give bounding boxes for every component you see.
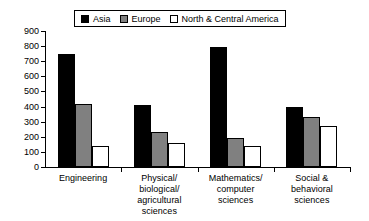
y-axis-tick-mark xyxy=(41,137,45,138)
bar-north-central-america xyxy=(92,146,109,167)
y-axis-tick-mark xyxy=(41,107,45,108)
x-axis-category-label: Physical/ biological/ agricultural scien… xyxy=(121,173,197,217)
y-axis-tick-label: 700 xyxy=(24,57,39,66)
plot-area xyxy=(45,31,350,167)
y-axis-tick-mark xyxy=(41,31,45,32)
bar-asia xyxy=(134,105,151,167)
bar-chart: Asia Europe North & Central America 9008… xyxy=(0,0,369,221)
legend-label-asia: Asia xyxy=(93,14,111,24)
legend-swatch-europe xyxy=(120,15,128,23)
legend-entry-europe: Europe xyxy=(120,14,161,24)
y-axis-tick-label: 800 xyxy=(24,42,39,51)
bar-group xyxy=(198,31,274,167)
legend-label-europe: Europe xyxy=(132,14,161,24)
bar-europe xyxy=(303,117,320,167)
legend-entry-asia: Asia xyxy=(81,14,111,24)
bar-group xyxy=(274,31,350,167)
y-axis-tick-label: 500 xyxy=(24,87,39,96)
bar-north-central-america xyxy=(244,146,261,167)
y-axis-tick-label: 100 xyxy=(24,147,39,156)
y-axis-tick-mark xyxy=(41,46,45,47)
y-axis-tick-label: 900 xyxy=(24,27,39,36)
legend-entry-north-central-america: North & Central America xyxy=(170,14,279,24)
x-axis-category-label: Mathematics/ computer sciences xyxy=(198,173,274,206)
x-axis-category-label: Engineering xyxy=(45,173,121,184)
y-axis-tick-mark xyxy=(41,167,45,168)
y-axis-tick-label: 0 xyxy=(34,163,39,172)
bar-asia xyxy=(58,54,75,167)
x-axis-tick-mark xyxy=(198,168,199,172)
bar-group xyxy=(121,31,197,167)
bar-north-central-america xyxy=(168,143,185,167)
bar-asia xyxy=(210,47,227,167)
y-axis-tick-label: 300 xyxy=(24,117,39,126)
y-axis-labels: 9008007006005004003002001000 xyxy=(0,0,39,221)
bar-north-central-america xyxy=(320,126,337,167)
x-axis-category-label: Social & behavioral sciences xyxy=(274,173,350,206)
y-axis-tick-mark xyxy=(41,91,45,92)
x-axis-tick-mark xyxy=(350,168,351,172)
bar-group xyxy=(45,31,121,167)
y-axis-tick-mark xyxy=(41,76,45,77)
legend-label-north-central-america: North & Central America xyxy=(182,14,279,24)
y-axis-tick-label: 200 xyxy=(24,132,39,141)
legend-swatch-asia xyxy=(81,15,89,23)
x-axis-tick-mark xyxy=(274,168,275,172)
x-axis-tick-mark xyxy=(121,168,122,172)
y-axis-tick-mark xyxy=(41,122,45,123)
y-axis-tick-label: 600 xyxy=(24,72,39,81)
bar-europe xyxy=(227,138,244,167)
bar-europe xyxy=(75,104,92,167)
y-axis-tick-mark xyxy=(41,152,45,153)
chart-legend: Asia Europe North & Central America xyxy=(74,10,286,27)
y-axis-tick-mark xyxy=(41,61,45,62)
legend-swatch-north-central-america xyxy=(170,15,178,23)
y-axis-tick-label: 400 xyxy=(24,102,39,111)
bar-asia xyxy=(286,107,303,167)
bar-europe xyxy=(151,132,168,167)
